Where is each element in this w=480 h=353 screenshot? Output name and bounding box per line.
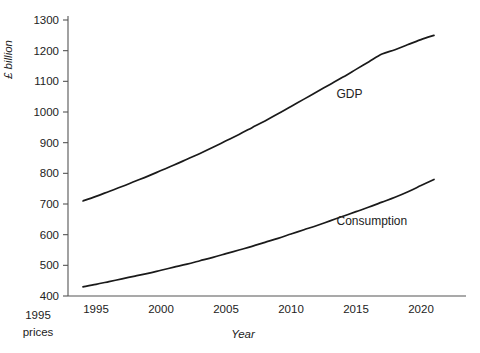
price-basis-note-prices: prices [23, 326, 54, 338]
y-tick-label: 1300 [33, 14, 59, 26]
series-line-gdp [83, 35, 434, 201]
chart-container: 4005006007008009001000110012001300 19952… [0, 0, 480, 353]
x-axis-title: Year [231, 328, 256, 340]
y-tick-label: 700 [40, 198, 59, 210]
line-chart-figure: 4005006007008009001000110012001300 19952… [0, 0, 480, 353]
series-line-consumption [83, 179, 434, 286]
price-basis-note-year: 1995 [25, 309, 51, 321]
axes-group [68, 16, 466, 296]
y-axis-ticks: 4005006007008009001000110012001300 [33, 14, 68, 302]
series-group [83, 35, 434, 286]
x-tick-label: 2010 [278, 303, 304, 315]
y-tick-label: 900 [40, 137, 59, 149]
y-tick-label: 1000 [33, 106, 59, 118]
x-tick-label: 2005 [213, 303, 239, 315]
x-tick-label: 2000 [148, 303, 174, 315]
x-tick-label: 2015 [343, 303, 369, 315]
y-tick-label: 1100 [34, 75, 59, 87]
y-tick-label: 400 [40, 290, 59, 302]
x-tick-label: 2020 [408, 303, 434, 315]
y-axis-title: £ billion [2, 40, 14, 80]
x-axis-ticks: 199520002005201020152020 [83, 303, 434, 315]
series-label-gdp: GDP [337, 87, 363, 101]
y-tick-label: 800 [40, 167, 59, 179]
y-tick-label: 500 [40, 259, 59, 271]
y-tick-label: 1200 [33, 45, 59, 57]
y-tick-label: 600 [40, 229, 59, 241]
series-label-consumption: Consumption [337, 214, 408, 228]
x-tick-label: 1995 [83, 303, 109, 315]
